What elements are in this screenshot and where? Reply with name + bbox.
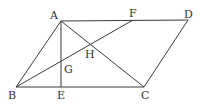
label-e: E (57, 89, 65, 102)
label-b: B (8, 89, 16, 102)
label-a: A (49, 9, 59, 22)
geometry-diagram: A F D H G B E C (0, 0, 202, 110)
label-c: C (141, 89, 149, 102)
segment-bf (16, 20, 133, 87)
label-f: F (129, 7, 137, 20)
label-g: G (64, 63, 73, 76)
label-d: D (184, 8, 193, 21)
segment-dc (144, 20, 188, 87)
label-h: H (85, 48, 95, 61)
segment-ba (16, 21, 61, 87)
segment-ad (61, 20, 188, 21)
